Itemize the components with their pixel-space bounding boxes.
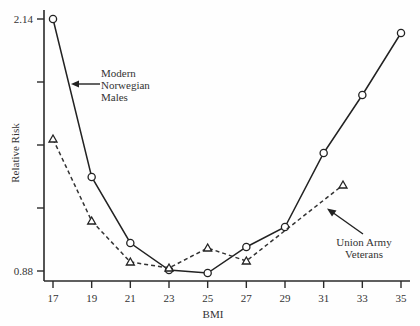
x-tick-label: 25 bbox=[202, 292, 214, 304]
x-tick-label: 27 bbox=[241, 292, 253, 304]
triangle-marker-icon bbox=[88, 217, 96, 224]
annotation-norwegian-line-2: Norwegian bbox=[101, 79, 150, 91]
y-tick-label: 2.14 bbox=[14, 13, 34, 25]
circle-marker-icon bbox=[49, 15, 56, 22]
triangle-marker-icon bbox=[339, 181, 347, 188]
annotation-norwegian-line-3: Males bbox=[101, 91, 128, 103]
x-tick-label: 19 bbox=[86, 292, 98, 304]
x-axis-title: BMI bbox=[203, 308, 224, 320]
arrowhead-norwegian-icon bbox=[71, 81, 79, 88]
arrowhead-union-army-icon bbox=[327, 209, 337, 217]
circle-marker-icon bbox=[88, 173, 95, 180]
annotation-union-army: Union Army Veterans bbox=[327, 209, 392, 261]
series-union-army-veterans bbox=[49, 135, 347, 271]
triangle-marker-icon bbox=[204, 244, 212, 251]
annotation-union-army-line-1: Union Army bbox=[336, 236, 392, 248]
x-tick-label: 17 bbox=[48, 292, 60, 304]
annotations: Modern Norwegian Males Union Army Vetera… bbox=[71, 67, 392, 260]
x-tick-label: 29 bbox=[280, 292, 292, 304]
series-line bbox=[53, 139, 343, 268]
x-tick-label: 35 bbox=[396, 292, 408, 304]
arrow-union-army bbox=[332, 212, 363, 234]
annotation-norwegian-line-1: Modern bbox=[101, 67, 136, 79]
x-tick-label: 23 bbox=[164, 292, 176, 304]
circle-marker-icon bbox=[127, 239, 134, 246]
y-axis-title: Relative Risk bbox=[9, 123, 21, 183]
chart: 2.140.88 17192123252729313335 BMI Relati… bbox=[0, 0, 420, 326]
series-line bbox=[53, 19, 401, 273]
line-chart-svg: 2.140.88 17192123252729313335 BMI Relati… bbox=[0, 0, 420, 326]
x-ticks: 17192123252729313335 bbox=[48, 281, 408, 304]
circle-marker-icon bbox=[397, 29, 404, 36]
y-tick-label: 0.88 bbox=[14, 265, 34, 277]
annotation-union-army-line-2: Veterans bbox=[345, 248, 383, 260]
x-tick-label: 21 bbox=[125, 292, 136, 304]
circle-marker-icon bbox=[243, 243, 250, 250]
circle-marker-icon bbox=[320, 149, 327, 156]
triangle-marker-icon bbox=[49, 135, 57, 142]
circle-marker-icon bbox=[359, 91, 366, 98]
circle-marker-icon bbox=[204, 269, 211, 276]
x-tick-label: 33 bbox=[357, 292, 369, 304]
x-tick-label: 31 bbox=[318, 292, 329, 304]
annotation-norwegian: Modern Norwegian Males bbox=[71, 67, 150, 103]
